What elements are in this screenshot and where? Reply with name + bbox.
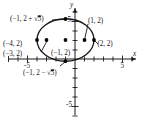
y-tick-label-neg5: -5 [66,102,72,109]
y-tick-label-5: 5 [68,17,72,24]
point-center [64,38,68,42]
radical-sign-top: √5 [34,16,41,23]
label-co-vertex-top: (−1, 2 + √5) [10,16,44,23]
y-axis-label: y [70,2,73,9]
label-center: (−1, 2) [51,50,70,57]
radical-bar-bottom [51,70,55,71]
point-co-vertex-bottom [64,59,68,63]
x-tick-label-5: 5 [121,63,125,70]
label-focus-right: (1, 2) [88,18,103,25]
leader-line-top-covertex [52,20,64,21]
label-focus-left: (−3, 2) [3,51,22,58]
label-co-vertex-bottom-suffix: ) [54,69,56,77]
label-co-vertex-bottom-prefix: (−1, 2 − [23,69,47,77]
x-axis-label: x [133,51,136,58]
point-focus-left [45,38,49,42]
leader-line-left-focus [41,41,47,52]
radical-sign-bottom: √5 [47,70,54,77]
point-vertex-left [35,38,39,42]
ellipse-graph-figure: y x 5 -5 -5 5 (−1, 2 + √5) (1, 2) (−4, 2… [0,0,142,121]
point-focus-right [83,38,87,42]
point-vertex-right [92,38,96,42]
leader-line-right-focus [85,24,89,40]
label-vertex-left: (−4, 2) [3,41,22,48]
label-co-vertex-top-suffix: ) [41,15,43,23]
label-co-vertex-bottom: (−1, 2 − √5) [23,70,57,77]
radical-bar-top [38,16,42,17]
label-vertex-right: (2, 2) [98,41,113,48]
label-co-vertex-top-prefix: (−1, 2 + [10,15,34,23]
